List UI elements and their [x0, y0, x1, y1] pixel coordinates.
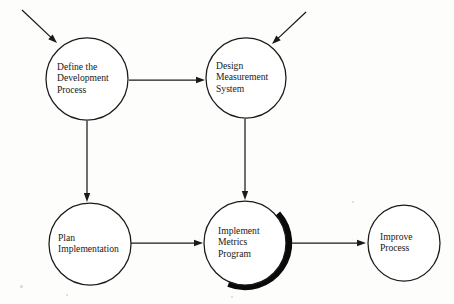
scan-speck — [20, 285, 23, 288]
diagram-canvas: Define theDevelopmentProcessDesignMeasur… — [0, 0, 454, 304]
node-label-line: Implement — [218, 225, 260, 236]
node-label-line: Design — [216, 60, 243, 71]
node-define-development-process[interactable]: Define theDevelopmentProcess — [46, 38, 128, 120]
node-label-line: Metrics — [218, 236, 248, 247]
connector-implement-to-improve — [290, 240, 366, 246]
arrowhead-icon — [357, 240, 366, 246]
connector-plan-to-implement — [131, 240, 203, 246]
connector-external-input-to-design — [272, 12, 306, 44]
process-flow-diagram: Define theDevelopmentProcessDesignMeasur… — [0, 0, 454, 304]
node-label-line: Measurement — [216, 71, 269, 82]
connector-line — [277, 12, 306, 39]
arrowhead-icon — [242, 191, 248, 200]
scan-speck — [66, 294, 68, 296]
node-label-line: Define the — [57, 61, 97, 72]
node-label-line: Implementation — [58, 243, 119, 254]
node-improve-process[interactable]: ImproveProcess — [368, 205, 440, 281]
node-label-line: System — [216, 83, 245, 94]
node-design-measurement-system[interactable]: DesignMeasurementSystem — [206, 38, 286, 118]
scan-speck — [352, 201, 354, 203]
node-label-line: Plan — [58, 232, 75, 243]
connector-define-to-plan — [84, 121, 90, 202]
node-label-line: Program — [218, 248, 252, 259]
node-plan-implementation[interactable]: PlanImplementation — [49, 203, 131, 285]
connector-external-input-to-define — [22, 10, 57, 43]
node-implement-metrics-program[interactable]: ImplementMetricsProgram — [204, 201, 288, 287]
arrowhead-icon — [194, 240, 203, 246]
scan-speck — [231, 296, 233, 298]
arrowhead-icon — [196, 77, 205, 83]
connector-define-to-design — [129, 77, 205, 83]
connector-line — [22, 10, 52, 38]
node-label-line: Development — [57, 72, 109, 83]
node-label-line: Process — [57, 84, 87, 95]
connector-design-to-implement — [242, 119, 248, 200]
nodes-layer: Define theDevelopmentProcessDesignMeasur… — [46, 38, 440, 287]
node-label-line: Improve — [380, 231, 413, 242]
node-label-line: Process — [380, 242, 410, 253]
arrowhead-icon — [84, 193, 90, 202]
